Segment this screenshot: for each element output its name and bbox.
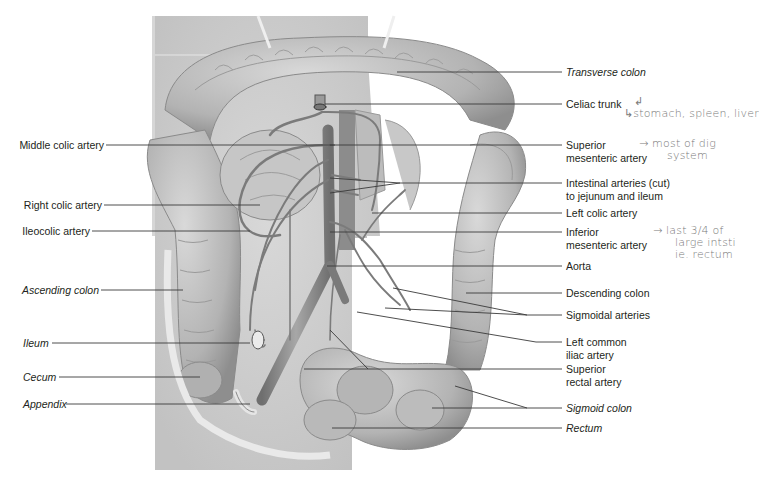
descending-colon-drawing	[445, 132, 526, 370]
label-ileocolic-artery: Ileocolic artery	[10, 225, 90, 238]
label-left-colic-artery: Left colic artery	[566, 207, 637, 220]
label-sigmoidal-arteries: Sigmoidal arteries	[566, 309, 650, 322]
label-line: Inferior	[566, 226, 647, 239]
note-line: ie. rectum	[653, 249, 736, 261]
label-line: mesenteric artery	[566, 152, 647, 165]
handwritten-note-celiac: ↲ ↳stomach, spleen, liver	[632, 96, 759, 120]
label-line: mesenteric artery	[566, 239, 647, 252]
label-aorta: Aorta	[566, 260, 591, 273]
label-descending-colon: Descending colon	[566, 287, 649, 300]
label-middle-colic-artery: Middle colic artery	[10, 139, 104, 152]
label-line: iliac artery	[566, 349, 627, 362]
label-sigmoid-colon: Sigmoid colon	[566, 402, 632, 415]
label-left-common-iliac-artery: Left common iliac artery	[566, 336, 627, 361]
label-line: Left common	[566, 336, 627, 349]
label-right-colic-artery: Right colic artery	[10, 199, 102, 212]
label-celiac-trunk: Celiac trunk	[566, 98, 621, 111]
label-transverse-colon: Transverse colon	[566, 66, 646, 79]
label-line: to jejunum and ileum	[566, 190, 670, 203]
label-ileum: Ileum	[23, 337, 49, 350]
label-line: Intestinal arteries (cut)	[566, 177, 670, 190]
label-appendix: Appendix	[23, 398, 67, 411]
label-line: rectal artery	[566, 376, 621, 389]
handwritten-note-superior-mesenteric: → most of dig system	[639, 138, 716, 162]
note-line: ↳stomach, spleen, liver	[624, 108, 759, 120]
label-superior-mesenteric-artery: Superior mesenteric artery	[566, 139, 647, 164]
label-line: Superior	[566, 139, 647, 152]
label-inferior-mesenteric-artery: Inferior mesenteric artery	[566, 226, 647, 251]
label-superior-rectal-artery: Superior rectal artery	[566, 363, 621, 388]
label-ascending-colon: Ascending colon	[10, 284, 99, 297]
handwritten-note-inferior-mesenteric: → last 3/4 of large intsti ie. rectum	[653, 225, 736, 261]
label-intestinal-arteries: Intestinal arteries (cut) to jejunum and…	[566, 177, 670, 202]
label-line: Superior	[566, 363, 621, 376]
note-line: system	[639, 150, 716, 162]
label-rectum: Rectum	[566, 422, 602, 435]
label-cecum: Cecum	[23, 371, 56, 384]
